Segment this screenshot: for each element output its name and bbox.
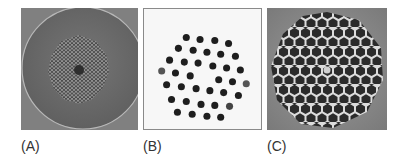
panel-c-label: (C) <box>267 137 286 155</box>
honeycomb-cells-image <box>267 8 387 130</box>
panel-b-label: (B) <box>143 137 162 155</box>
panel-c-honeycomb-cells <box>267 8 387 130</box>
panel-a-label: (A) <box>21 137 40 155</box>
fiber-cross-section-image <box>21 8 138 130</box>
rod-lattice-image <box>144 9 261 129</box>
panel-a-fiber-cross-section <box>21 8 138 130</box>
panel-b-rod-lattice <box>143 8 262 130</box>
